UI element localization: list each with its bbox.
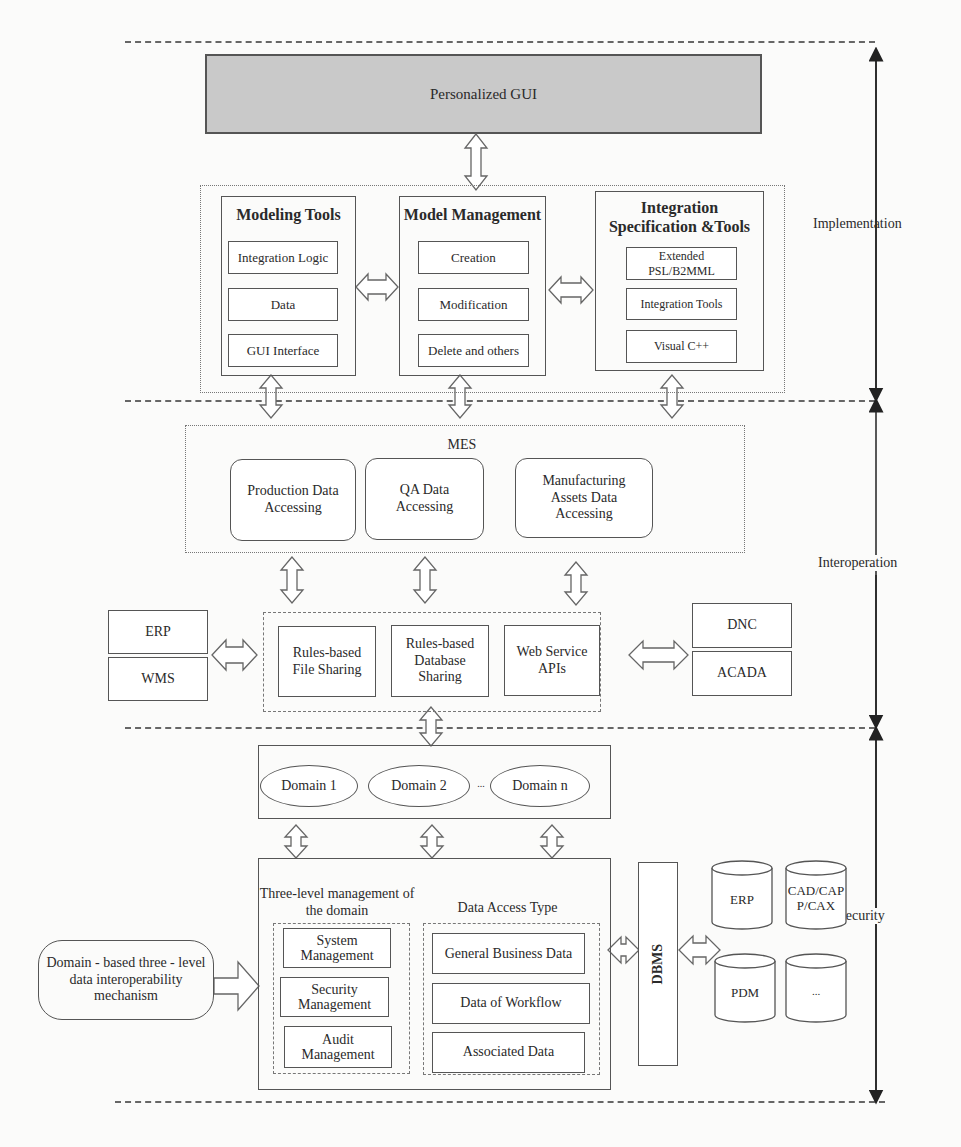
db-pdm-label: PDM: [715, 985, 775, 1001]
db-erp-label: ERP: [712, 892, 772, 908]
db-more-label: ...: [786, 985, 846, 997]
db-cad-label: CAD/CAP P/CAX: [786, 884, 846, 914]
database-cylinder-icons: [0, 0, 961, 1147]
